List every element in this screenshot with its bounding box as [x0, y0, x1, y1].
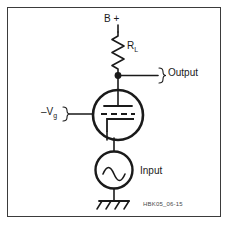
output-brace-icon [159, 68, 166, 83]
grid-bias-branch [63, 107, 93, 121]
output-label: Output [168, 68, 198, 78]
triode-tube-symbol [93, 90, 143, 140]
supply-label: B + [104, 14, 119, 24]
source-circle [96, 152, 133, 189]
input-label: Input [140, 166, 162, 176]
circuit-schematic [0, 0, 230, 226]
figure-container: B + RL Output –Vg Input HBK05_06-15 [0, 0, 230, 226]
load-resistor-subscript: L [134, 46, 138, 53]
load-resistor-symbol [112, 32, 124, 73]
grid-bias-brace-icon [63, 107, 70, 121]
grid-bias-symbol: –V [41, 106, 53, 117]
output-branch [115, 68, 166, 90]
grid-bias-subscript: g [53, 112, 57, 119]
earth-ground-symbol [97, 201, 129, 209]
figure-code-label: HBK05_06-15 [143, 201, 183, 207]
load-resistor-label: RL [127, 41, 138, 53]
ac-input-source-symbol [96, 152, 133, 189]
grid-bias-label: –Vg [41, 107, 57, 119]
